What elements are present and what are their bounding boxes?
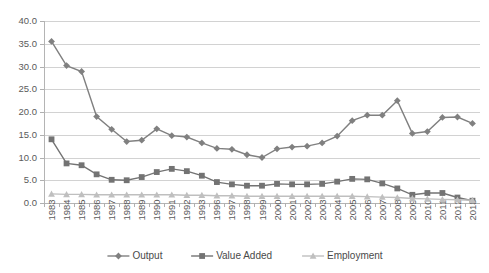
data-point-marker: [214, 179, 220, 185]
data-point-marker: [94, 171, 100, 177]
data-point-marker: [349, 176, 355, 182]
x-axis-tick-label: 2009: [407, 199, 418, 220]
x-axis-tick-labels: 1983198419851986198719881989199019911992…: [46, 199, 478, 220]
x-axis-tick-label: 2005: [347, 199, 358, 220]
x-axis-tick-label: 2008: [392, 199, 403, 220]
x-axis-tick-label: 1996: [211, 199, 222, 220]
x-axis-tick-label: 2002: [302, 199, 313, 220]
data-point-marker: [244, 183, 250, 189]
x-axis-tick-label: 1992: [181, 199, 192, 220]
data-point-marker: [154, 169, 160, 175]
data-point-marker: [64, 161, 70, 167]
data-point-marker: [259, 154, 266, 161]
data-point-marker: [139, 174, 145, 180]
x-axis-tick-label: 1991: [166, 199, 177, 220]
series-output: [48, 38, 476, 161]
x-axis-tick-label: 1990: [151, 199, 162, 220]
x-axis-tick-label: 2006: [362, 199, 373, 220]
data-point-marker: [304, 143, 311, 150]
x-axis-tick-label: 2001: [287, 199, 298, 220]
data-point-marker: [229, 181, 235, 187]
y-axis-tick-label: 15.0: [19, 129, 38, 140]
data-point-marker: [169, 166, 175, 172]
y-axis-tick-label: 0.0: [24, 197, 37, 208]
data-point-marker: [289, 144, 296, 151]
x-axis-tick-label: 1998: [241, 199, 252, 220]
data-point-marker: [184, 168, 190, 174]
data-point-marker: [183, 134, 190, 141]
data-point-marker: [454, 114, 461, 121]
x-axis-tick-label: 1986: [91, 199, 102, 220]
data-point-marker: [364, 176, 370, 182]
data-point-marker: [229, 146, 236, 153]
x-axis-tick-label: 1983: [46, 199, 57, 220]
data-point-marker: [49, 136, 55, 142]
data-point-marker: [244, 151, 251, 158]
legend-item-output[interactable]: Output: [107, 250, 162, 261]
y-axis-tick-label: 40.0: [19, 15, 38, 26]
x-axis-tick-label: 2007: [377, 199, 388, 220]
data-point-marker: [440, 190, 446, 196]
legend-label: Value Added: [216, 250, 272, 261]
chart-legend: OutputValue AddedEmployment: [107, 250, 382, 261]
series-line: [52, 41, 473, 157]
x-axis-tick-label: 2012: [452, 199, 463, 220]
data-point-marker: [274, 145, 281, 152]
y-axis-tick-labels: 0.05.010.015.020.025.030.035.040.0: [19, 15, 38, 208]
data-point-marker: [274, 181, 280, 187]
y-axis-tick-label: 10.0: [19, 152, 38, 163]
data-point-marker: [259, 183, 265, 189]
series-line: [52, 139, 473, 200]
legend-item-value-added[interactable]: Value Added: [191, 250, 272, 261]
data-point-marker: [379, 181, 385, 187]
x-axis-tick-label: 1997: [226, 199, 237, 220]
y-axis-tick-label: 25.0: [19, 83, 38, 94]
plot-axes: [40, 21, 480, 207]
x-axis-tick-label: 2011: [437, 200, 448, 220]
line-chart: 0.05.010.015.020.025.030.035.040.0 19831…: [0, 0, 489, 273]
legend-label: Output: [132, 250, 162, 261]
data-point-marker: [78, 68, 85, 75]
y-axis-tick-label: 5.0: [24, 174, 37, 185]
chart-container: 0.05.010.015.020.025.030.035.040.0 19831…: [0, 0, 489, 273]
data-series-group: [48, 38, 476, 204]
data-point-marker: [394, 186, 400, 192]
data-point-marker: [289, 181, 295, 187]
legend-label: Employment: [327, 250, 383, 261]
data-point-marker: [48, 38, 55, 45]
y-axis-tick-label: 35.0: [19, 38, 38, 49]
legend-marker-icon: [115, 253, 122, 260]
x-axis-tick-label: 2004: [332, 199, 343, 220]
data-point-marker: [424, 190, 430, 196]
data-point-marker: [124, 177, 130, 183]
data-point-marker: [109, 177, 115, 183]
y-axis-tick-label: 30.0: [19, 61, 38, 72]
x-axis-tick-label: 2010: [422, 199, 433, 220]
x-axis-tick-label: 1989: [136, 199, 147, 220]
data-point-marker: [469, 120, 476, 127]
data-point-marker: [199, 173, 205, 179]
legend-marker-icon: [199, 253, 205, 259]
data-point-marker: [79, 162, 85, 168]
x-axis-tick-label: 2000: [272, 199, 283, 220]
y-axis-tick-label: 20.0: [19, 106, 38, 117]
x-axis-tick-label: 2003: [317, 199, 328, 220]
data-point-marker: [334, 179, 340, 185]
legend-item-employment[interactable]: Employment: [302, 250, 383, 261]
plot-gridlines: [44, 22, 480, 204]
data-point-marker: [198, 140, 205, 147]
data-point-marker: [214, 145, 221, 152]
x-axis-tick-label: 1985: [76, 199, 87, 220]
data-point-marker: [304, 181, 310, 187]
x-axis-tick-label: 1984: [61, 199, 72, 220]
data-point-marker: [319, 181, 325, 187]
x-axis-tick-label: 1987: [106, 199, 117, 220]
x-axis-tick-label: 1993: [196, 199, 207, 220]
data-point-marker: [168, 132, 175, 139]
x-axis-tick-label: 1988: [121, 199, 132, 220]
x-axis-tick-label: 1999: [257, 199, 268, 220]
data-point-marker: [319, 140, 326, 147]
